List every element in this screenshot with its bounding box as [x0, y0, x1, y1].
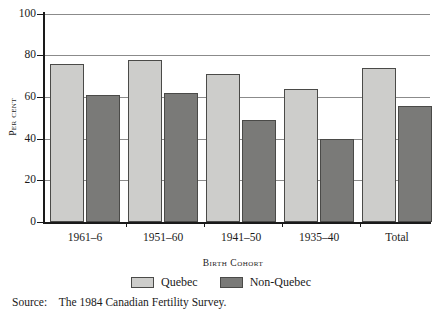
- bar-non-quebec-total: [398, 106, 432, 222]
- x-tick-3: [282, 222, 283, 227]
- bar-quebec-1951-60: [128, 60, 162, 222]
- bar-quebec-1941-50: [206, 74, 240, 222]
- legend-item-quebec: Quebec: [131, 275, 198, 290]
- x-tick-4: [360, 222, 361, 227]
- source-note: Source: The 1984 Canadian Fertility Surv…: [12, 296, 226, 308]
- bar-quebec-total: [362, 68, 396, 222]
- legend: Quebec Non-Quebec: [0, 275, 442, 290]
- y-tick-label-20: 20: [2, 174, 36, 186]
- y-tick-label-100: 100: [2, 8, 36, 20]
- legend-item-non-quebec: Non-Quebec: [220, 275, 311, 290]
- x-tick-1: [126, 222, 127, 227]
- x-category-label-total: Total: [360, 231, 434, 243]
- x-category-label-1941-50: 1941–50: [204, 231, 278, 243]
- bar-group-total: [360, 14, 434, 222]
- x-category-label-1961-6: 1961–6: [48, 231, 122, 243]
- legend-swatch-non-quebec-icon: [220, 277, 243, 288]
- source-text: The 1984 Canadian Fertility Survey.: [59, 296, 227, 308]
- y-tick-label-0: 0: [2, 216, 36, 228]
- bar-quebec-1961-6: [50, 64, 84, 222]
- x-axis-title: Birth Cohort: [0, 258, 442, 268]
- legend-label-non-quebec: Non-Quebec: [250, 275, 311, 290]
- x-category-label-1951-60: 1951–60: [126, 231, 200, 243]
- bar-non-quebec-1961-6: [86, 95, 120, 222]
- x-tick-2: [204, 222, 205, 227]
- x-category-label-1935-40: 1935–40: [282, 231, 356, 243]
- bar-non-quebec-1951-60: [164, 93, 198, 222]
- bar-groups: [44, 14, 430, 222]
- bar-group-1951-60: [126, 14, 200, 222]
- y-tick-label-80: 80: [2, 49, 36, 61]
- figure: 100 80 60 40 20 0 Per cent: [0, 0, 442, 314]
- bar-non-quebec-1941-50: [242, 120, 276, 222]
- y-axis-title: Per cent: [8, 82, 18, 152]
- bar-quebec-1935-40: [284, 89, 318, 222]
- legend-label-quebec: Quebec: [161, 275, 198, 290]
- x-axis-line: [43, 222, 431, 224]
- bar-non-quebec-1935-40: [320, 139, 354, 222]
- bar-group-1961-6: [48, 14, 122, 222]
- y-axis-labels: 100 80 60 40 20 0: [0, 0, 36, 240]
- source-label: Source:: [12, 296, 47, 308]
- bar-group-1935-40: [282, 14, 356, 222]
- bar-group-1941-50: [204, 14, 278, 222]
- legend-swatch-quebec-icon: [131, 277, 154, 288]
